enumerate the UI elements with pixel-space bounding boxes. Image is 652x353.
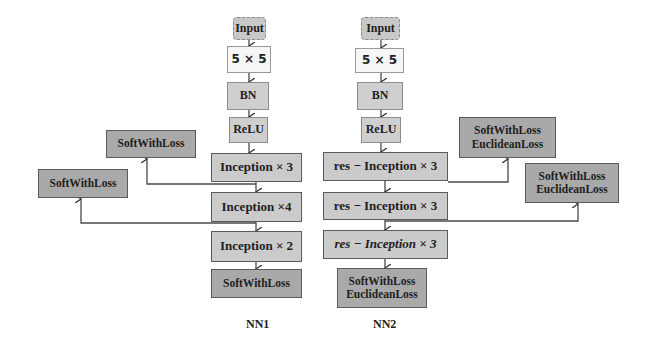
- nn2-res-inception-block-2: res − Inception × 3: [323, 192, 448, 220]
- nn1-caption: NN1: [246, 317, 269, 332]
- nn2-final-loss-line1: SoftWithLoss: [349, 275, 416, 288]
- nn1-aux-softwithloss-2: SoftWithLoss: [38, 169, 128, 198]
- nn2-aux-loss-2: SoftWithLoss EuclideanLoss: [525, 163, 619, 203]
- nn1-aux-softwithloss-1: SoftWithLoss: [106, 130, 196, 158]
- nn2-final-loss: SoftWithLoss EuclideanLoss: [337, 268, 427, 308]
- nn1-relu-layer: ReLU: [229, 117, 268, 143]
- nn2-aux-loss-1-line2: EuclideanLoss: [472, 138, 544, 151]
- nn2-aux-loss-2-line1: SoftWithLoss: [539, 170, 606, 183]
- nn1-inception-x2-block: Inception × 2: [211, 231, 302, 262]
- nn2-input-layer: Input: [361, 17, 400, 40]
- nn1-inception-x3-block: Inception × 3: [211, 153, 302, 182]
- nn1-input-layer: Input: [233, 17, 266, 40]
- nn2-res-inception-block-3: res − Inception × 3: [323, 230, 448, 259]
- nn2-conv-5x5-layer: 5 × 5: [355, 48, 404, 73]
- nn1-final-softwithloss: SoftWithLoss: [211, 269, 302, 298]
- nn2-aux-loss-1-line1: SoftWithLoss: [474, 124, 541, 137]
- nn2-relu-layer: ReLU: [361, 117, 401, 143]
- nn1-inception-x4-block: Inception ×4: [211, 192, 302, 222]
- nn1-bn-layer: BN: [227, 82, 269, 110]
- nn2-aux-loss-2-line2: EuclideanLoss: [536, 183, 608, 196]
- nn2-res-inception-block-1: res − Inception × 3: [323, 152, 448, 181]
- nn2-bn-layer: BN: [357, 82, 403, 110]
- nn2-caption: NN2: [373, 317, 396, 332]
- nn1-conv-5x5-layer: 5 × 5: [227, 46, 271, 73]
- nn2-final-loss-line2: EuclideanLoss: [346, 288, 418, 301]
- nn2-aux-loss-1: SoftWithLoss EuclideanLoss: [459, 117, 556, 158]
